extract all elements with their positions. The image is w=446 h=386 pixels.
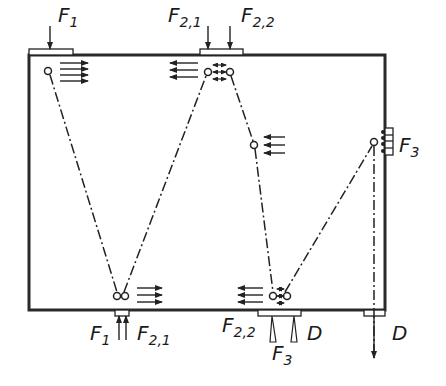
node-5a (270, 293, 277, 300)
label-top-f22: F2,2 (241, 3, 275, 30)
plate-top-center (200, 49, 243, 55)
rope-path (50, 75, 374, 358)
plate-bottom-center (258, 310, 301, 316)
pulley-nodes (45, 68, 378, 300)
label-bottom-f1: F1 (90, 321, 110, 348)
pulley-force-diagram: F1 F2,1 F2,2 F3 F1 F2,1 F2,2 F3 D D (0, 0, 446, 386)
node-3a (205, 69, 212, 76)
label-top-f1: F1 (58, 3, 78, 30)
node-4 (251, 142, 258, 149)
node-3b (227, 69, 234, 76)
label-top-f21: F2,1 (168, 3, 202, 30)
vertical-arrows (50, 26, 374, 358)
node-1 (45, 68, 52, 75)
label-bottom-f21: F2,1 (137, 321, 171, 348)
node-2b (122, 293, 129, 300)
double-arrows (213, 65, 284, 303)
frame (29, 55, 385, 310)
label-bottom-f22: F2,2 (222, 313, 256, 340)
tapered-arrows (270, 316, 297, 342)
node-5b (284, 293, 291, 300)
label-right-d: D (392, 321, 407, 345)
label-bottom-f3: F3 (272, 341, 292, 368)
label-right-f3: F3 (399, 133, 419, 160)
label-bottom-d: D (307, 321, 322, 345)
node-6 (371, 139, 378, 146)
node-2a (114, 293, 121, 300)
horizontal-arrows (60, 63, 285, 302)
plate-top-left (29, 49, 73, 55)
plate-bottom-left (115, 310, 129, 316)
